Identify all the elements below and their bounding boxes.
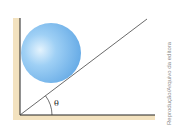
ball [21,23,81,83]
angle-theta-label: θ [54,99,59,108]
wall-surface [13,18,20,120]
physics-diagram: θ [0,0,176,130]
angle-arc [46,96,53,115]
floor-surface [13,115,155,120]
image-credit: Reprodução/Arquivo da editora [160,5,172,125]
credit-text: Reprodução/Arquivo da editora [166,42,172,125]
